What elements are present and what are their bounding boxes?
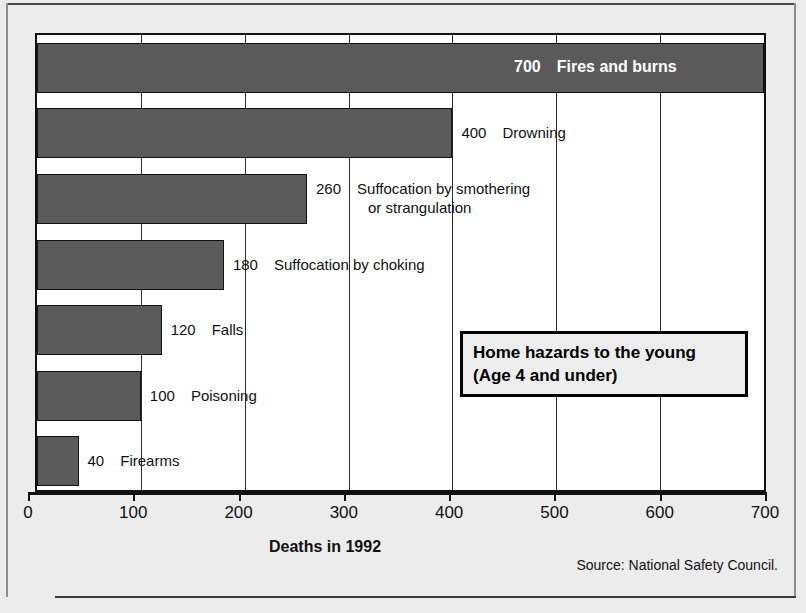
bar-value-label: 700Fires and burns	[514, 57, 677, 76]
bar-value-label: 100Poisoning	[150, 386, 257, 405]
bar-category-label: Suffocation by smothering	[357, 180, 530, 197]
bar[interactable]	[37, 240, 224, 290]
bar-value-label: 180Suffocation by choking	[233, 255, 425, 274]
x-tick-label-300: 300	[330, 503, 358, 523]
bar-category-label: Fires and burns	[557, 58, 677, 75]
bar-value-label: 120Falls	[171, 320, 244, 339]
x-tick-label-0: 0	[23, 503, 32, 523]
x-tick-0	[28, 492, 30, 501]
figure-canvas: 700Fires and burns400Drowning260Suffocat…	[0, 0, 806, 613]
x-tick-300	[344, 492, 346, 501]
x-tick-600	[660, 492, 662, 501]
source-note: Source: National Safety Council.	[576, 557, 778, 573]
x-tick-200	[239, 492, 241, 501]
bar-category-label-line2: or strangulation	[368, 198, 530, 217]
bar[interactable]	[37, 436, 79, 486]
frame-top-rule	[6, 3, 796, 5]
x-tick-label-700: 700	[751, 503, 779, 523]
bar-category-label: Drowning	[502, 124, 565, 141]
x-tick-label-500: 500	[540, 503, 568, 523]
bar-category-label: Falls	[212, 321, 244, 338]
bar-category-label: Suffocation by choking	[274, 256, 425, 273]
plot-area: 700Fires and burns400Drowning260Suffocat…	[35, 33, 766, 492]
bar-category-label: Poisoning	[191, 387, 257, 404]
bar-value: 180	[233, 255, 258, 274]
bar-value: 40	[88, 451, 105, 470]
x-tick-label-100: 100	[119, 503, 147, 523]
bar-value: 260	[316, 179, 341, 198]
bar-category-label: Firearms	[120, 452, 179, 469]
x-tick-700	[765, 492, 767, 501]
bar-value-label: 400Drowning	[461, 123, 565, 142]
callout-line-1: Home hazards to the young	[473, 341, 745, 364]
frame-left-rule	[6, 3, 8, 597]
x-axis-line	[28, 492, 766, 495]
bar[interactable]	[37, 371, 141, 421]
x-tick-400	[449, 492, 451, 501]
bar-value-label: 40Firearms	[88, 451, 180, 470]
bar[interactable]	[37, 108, 452, 158]
bar-value: 700	[514, 57, 541, 76]
bar-value: 400	[461, 123, 486, 142]
x-axis-title: Deaths in 1992	[0, 538, 650, 556]
frame-right-rule	[794, 3, 796, 597]
callout-title-box: Home hazards to the young (Age 4 and und…	[460, 331, 748, 397]
bar[interactable]	[37, 305, 162, 355]
x-tick-label-200: 200	[224, 503, 252, 523]
bar-value: 120	[171, 320, 196, 339]
bar-value: 100	[150, 386, 175, 405]
x-tick-500	[554, 492, 556, 501]
x-tick-100	[133, 492, 135, 501]
bar[interactable]	[37, 174, 307, 224]
x-tick-label-600: 600	[646, 503, 674, 523]
bar-row	[37, 108, 764, 158]
x-tick-label-400: 400	[435, 503, 463, 523]
callout-line-2: (Age 4 and under)	[473, 364, 745, 387]
frame-bottom-rule	[55, 596, 796, 598]
bar-value-label: 260Suffocation by smotheringor strangula…	[316, 179, 530, 217]
